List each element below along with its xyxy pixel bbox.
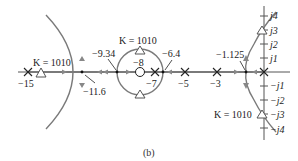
- svg-text:j2: j2: [268, 39, 278, 50]
- svg-text:−j3: −j3: [270, 109, 285, 120]
- svg-text:−j2: −j2: [270, 95, 285, 106]
- zero-label-m8: −8: [133, 57, 144, 68]
- zero-o-icon: [136, 68, 145, 77]
- svg-text:j1: j1: [268, 53, 278, 64]
- figure-caption: (b): [143, 147, 155, 159]
- gain-label-left: K = 1010: [33, 57, 71, 68]
- breakpoint-label-m1-125: −1.125: [216, 49, 244, 60]
- svg-text:j3: j3: [268, 25, 278, 36]
- root-locus-diagram: −15 −11.6 −9.34 −8 −7 −6.4 −5 −3 −1.125 …: [0, 0, 298, 161]
- k-triangle-circle-top: [135, 46, 145, 54]
- leader-lines: [85, 59, 245, 83]
- pole-label-m15: −15: [18, 78, 34, 89]
- k-triangle-circle-bottom: [135, 90, 145, 98]
- pole-label-m7: −7: [146, 78, 157, 89]
- pole-label-m3: −3: [210, 78, 221, 89]
- svg-text:−j4: −j4: [270, 124, 285, 135]
- gain-label-circle: K = 1010: [119, 35, 157, 46]
- breakpoint-label-m6-4: −6.4: [162, 48, 180, 59]
- svg-text:−j1: −j1: [270, 80, 285, 91]
- breakpoint-label-m9-34: −9.34: [92, 48, 115, 59]
- breakpoint-label-m11-6: −11.6: [83, 86, 106, 97]
- gain-label-right: K = 1010: [214, 109, 252, 120]
- svg-text:j4: j4: [268, 10, 278, 21]
- pole-label-m5: −5: [178, 78, 189, 89]
